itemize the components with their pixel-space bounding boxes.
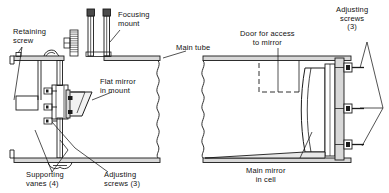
focusing-mount-part (86, 9, 111, 57)
adjusting-screw-left-2 (44, 104, 57, 110)
flat-mirror-mount-assembly (16, 85, 92, 124)
main-tube-top-wall-left (10, 56, 160, 64)
right-view-group (202, 56, 364, 163)
figure-canvas: Retaining screw Focusing mount Main tube… (0, 0, 389, 193)
vane-fitting-top (44, 50, 59, 56)
label-retaining-screw: Retaining screw (13, 28, 46, 45)
break-line-left (157, 61, 159, 159)
adjusting-screw-left-1 (44, 88, 57, 94)
main-tube-bottom-wall-left (10, 150, 160, 163)
label-main-tube: Main tube (176, 44, 210, 53)
label-main-mirror: Main mirror in cell (246, 167, 286, 184)
label-supporting-vanes: Supporting vanes (4) (26, 171, 64, 188)
telescope-cross-section-drawing (0, 0, 389, 193)
break-line-right (202, 61, 204, 159)
vane-fitting-bottom (48, 163, 72, 169)
label-focusing-mount: Focusing mount (118, 11, 150, 28)
spider-column-part (38, 61, 63, 159)
label-flat-mirror: Flat mirror in mount (100, 78, 136, 95)
threaded-column-part (64, 30, 78, 56)
main-mirror-in-cell-part (205, 58, 344, 160)
label-adjusting-screws-right: Adjusting screws (3) (336, 6, 368, 32)
label-adjusting-screws-left: Adjusting screws (3) (104, 171, 140, 188)
label-door-access: Door for access to mirror (240, 30, 295, 47)
access-door-outline (259, 61, 299, 93)
